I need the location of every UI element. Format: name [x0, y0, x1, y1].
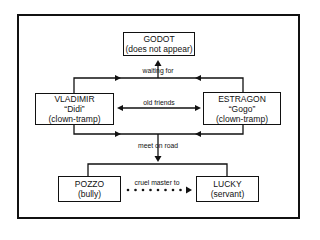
- node-vladimir: VLADIMIR “Didi” (clown-tramp): [35, 93, 114, 125]
- arrow-left-icon: [195, 75, 201, 81]
- pozzo-name: POZZO: [75, 179, 104, 189]
- edge-label-meet-on-road: meet on road: [138, 142, 178, 150]
- estragon-nickname: “Gogo”: [229, 104, 255, 114]
- lucky-role: (servant): [211, 189, 245, 199]
- arrow-down-icon: [155, 156, 162, 162]
- edge-label-cruel-master-to: cruel master to: [135, 179, 180, 187]
- vladimir-role: (clown-tramp): [49, 114, 101, 124]
- arrow-right-icon: [186, 187, 192, 194]
- node-godot: GODOT (does not appear): [123, 32, 195, 56]
- godot-note: (does not appear): [125, 44, 192, 54]
- pozzo-role: (bully): [78, 189, 101, 199]
- edge-label-old-friends: old friends: [143, 99, 174, 107]
- godot-name: GODOT: [143, 34, 174, 44]
- node-estragon: ESTRAGON “Gogo” (clown-tramp): [203, 92, 281, 125]
- arrow-right-icon: [195, 105, 201, 111]
- arrow-left-icon: [117, 105, 123, 111]
- estragon-name: ESTRAGON: [218, 94, 266, 104]
- edge-label-waiting-for: waiting for: [143, 67, 174, 75]
- arrow-right-icon: [115, 131, 121, 137]
- arrow-up-icon: [155, 60, 162, 66]
- vladimir-nickname: “Didi”: [64, 104, 84, 114]
- arrow-right-icon: [115, 75, 121, 81]
- lucky-name: LUCKY: [213, 179, 241, 189]
- vladimir-name: VLADIMIR: [54, 94, 94, 104]
- estragon-role: (clown-tramp): [216, 114, 268, 124]
- arrow-left-icon: [195, 131, 201, 137]
- node-pozzo: POZZO (bully): [58, 176, 121, 202]
- node-lucky: LUCKY (servant): [196, 176, 259, 202]
